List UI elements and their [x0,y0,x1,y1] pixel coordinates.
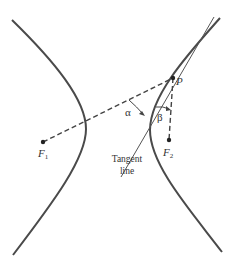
label-p: P [175,75,183,87]
label-f2: F2 [162,146,174,160]
hyperbola-right-branch [150,18,222,252]
alpha-arrow-icon [139,111,145,116]
label-f1: F1 [37,147,49,161]
focus-f2-dot [167,138,171,142]
hyperbola-left-branch [12,20,86,255]
label-tangent: Tangent [112,154,143,164]
label-alpha: α [125,106,131,118]
alpha-angle-arc [129,100,143,114]
label-line: line [120,166,134,176]
focus-f1-dot [41,140,45,144]
point-p-dot [171,76,175,80]
hyperbola-diagram: P F1 F2 α β Tangent line [0,0,237,264]
label-beta: β [157,111,163,123]
